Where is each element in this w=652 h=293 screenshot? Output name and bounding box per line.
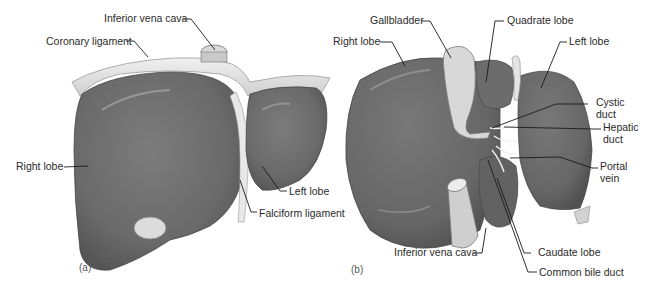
- panel-a-liver-anterior: [72, 45, 330, 270]
- quadrate-lobe-shape: [476, 60, 514, 109]
- left-lobe-shape: [246, 87, 327, 190]
- gallbladder-tip-shape: [134, 217, 166, 239]
- label-common-bile-duct: Common bile duct: [539, 266, 624, 278]
- panel-b-liver-inferior: [346, 46, 592, 248]
- label-right-lobe-a: Right lobe: [16, 160, 63, 172]
- label-cystic-duct: Cystic duct: [596, 96, 640, 120]
- label-hepatic-duct: Hepatic duct: [603, 121, 647, 145]
- label-falciform-ligament: Falciform ligament: [259, 207, 345, 219]
- panel-b-identifier: (b): [351, 264, 363, 275]
- label-right-lobe-b: Right lobe: [333, 35, 380, 47]
- label-coronary-ligament: Coronary ligament: [46, 35, 132, 47]
- label-gallbladder: Gallbladder: [370, 14, 424, 26]
- left-lobe-b-shape: [518, 71, 592, 209]
- caudate-lobe-shape: [479, 156, 518, 227]
- label-inferior-vena-cava-b: Inferior vena cava: [394, 246, 477, 258]
- label-caudate-lobe: Caudate lobe: [538, 246, 600, 258]
- label-inferior-vena-cava-a: Inferior vena cava: [104, 12, 187, 24]
- label-portal-vein: Portal vein: [600, 160, 640, 184]
- label-quadrate-lobe: Quadrate lobe: [507, 14, 574, 26]
- label-left-lobe-b: Left lobe: [569, 35, 609, 47]
- label-left-lobe-a: Left lobe: [289, 185, 329, 197]
- panel-a-identifier: (a): [79, 262, 91, 273]
- liver-anatomy-figure: Inferior vena cava Coronary ligament Rig…: [0, 0, 652, 293]
- right-lobe-shape: [74, 72, 244, 270]
